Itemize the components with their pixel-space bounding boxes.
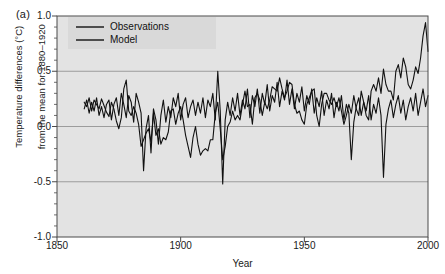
x-tick-label: 1850 (37, 240, 77, 251)
y-tick-label: -0.5 (17, 176, 51, 187)
y-tick-label: 1.0 (17, 10, 51, 21)
legend-label-model: Model (110, 34, 137, 45)
chart-plot (0, 0, 445, 274)
x-tick-label: 1950 (284, 240, 324, 251)
legend-label-observations: Observations (110, 21, 169, 32)
y-tick-label: 0.5 (17, 65, 51, 76)
y-tick-label: 0.0 (17, 121, 51, 132)
x-tick-label: 1900 (161, 240, 201, 251)
x-tick-label: 2000 (408, 240, 445, 251)
figure-panel-a: (a) Temperature differences (°C) from th… (0, 0, 445, 274)
